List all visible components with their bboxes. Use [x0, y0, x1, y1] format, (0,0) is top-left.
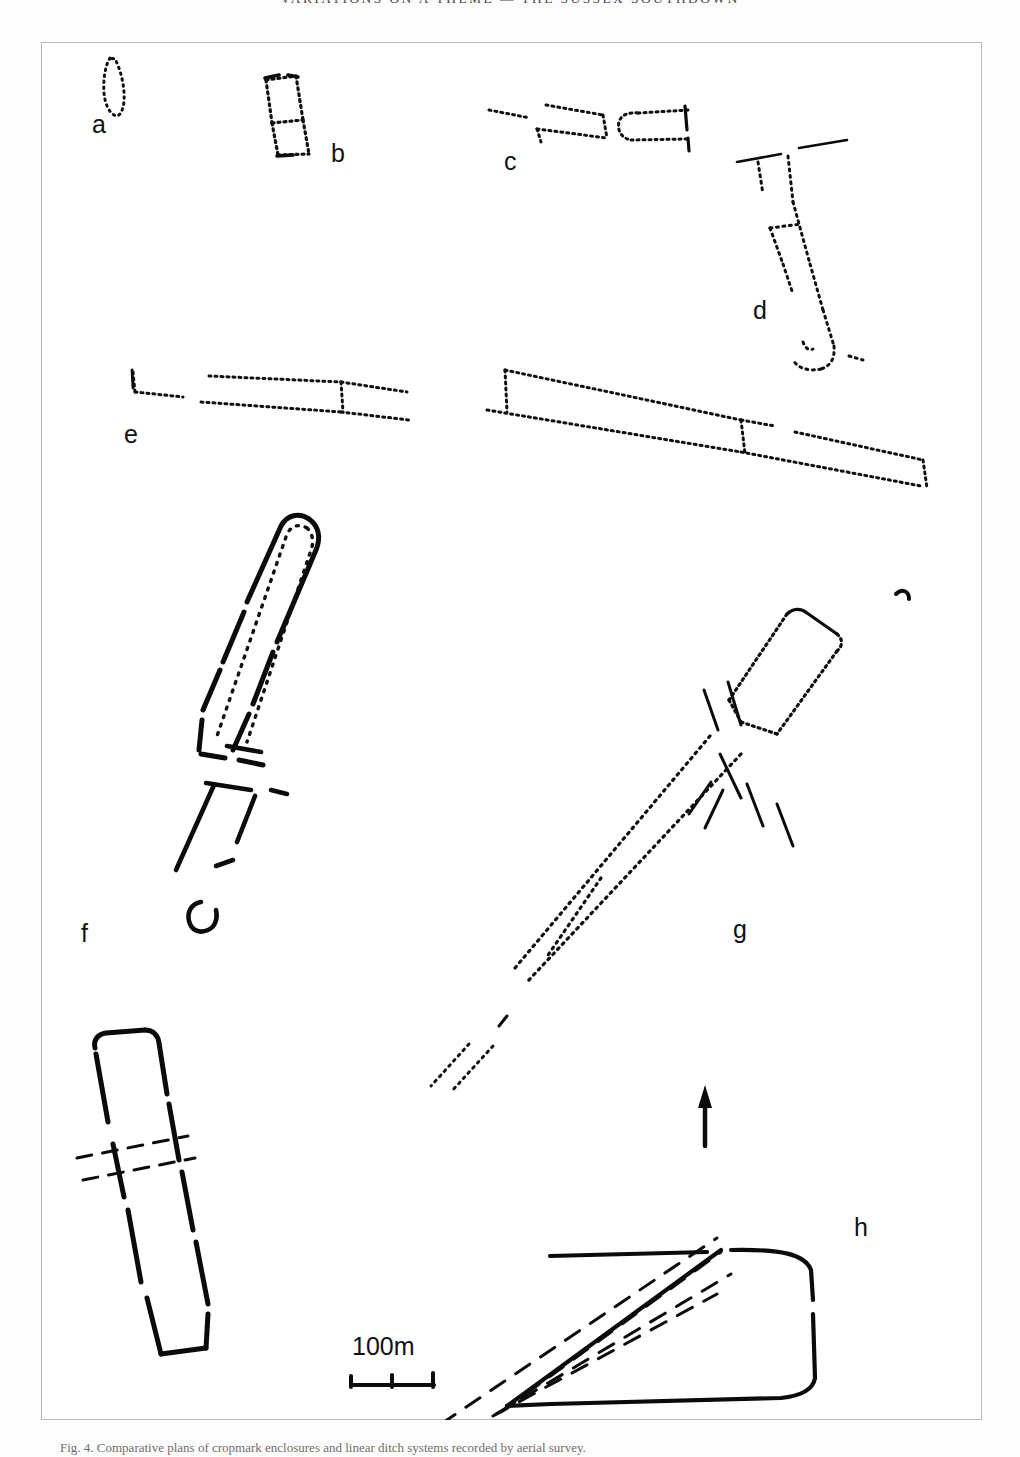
plan-f-longbarrow — [77, 515, 319, 1354]
plan-drawing: a b c — [41, 42, 982, 1420]
running-header: VARIATIONS ON A THEME — THE SUSSEX SOUTH… — [0, 0, 1020, 3]
plan-label-a: a — [92, 110, 106, 138]
plan-label-e: e — [124, 420, 138, 448]
plan-label-b: b — [331, 139, 345, 167]
plan-label-g: g — [733, 915, 747, 943]
figure-caption: Fig. 4. Comparative plans of cropmark en… — [60, 1440, 960, 1456]
plan-d-enclosure — [737, 140, 863, 370]
plan-label-h: h — [854, 1213, 868, 1241]
scale-bar-label: 100m — [352, 1332, 415, 1360]
plan-g-linear — [431, 591, 909, 1092]
plan-c-enclosure — [489, 105, 689, 151]
scanned-page: VARIATIONS ON A THEME — THE SUSSEX SOUTH… — [0, 0, 1020, 1457]
plan-e-linear — [132, 370, 927, 488]
plan-b-enclosure — [265, 75, 309, 156]
plan-label-d: d — [753, 296, 767, 324]
plan-a-enclosure — [104, 58, 124, 116]
north-arrow — [698, 1085, 712, 1146]
plan-label-c: c — [504, 147, 517, 175]
plan-label-f: f — [81, 919, 88, 947]
scale-bar: 100m — [351, 1332, 434, 1387]
plan-h-enclosure — [441, 1238, 815, 1420]
